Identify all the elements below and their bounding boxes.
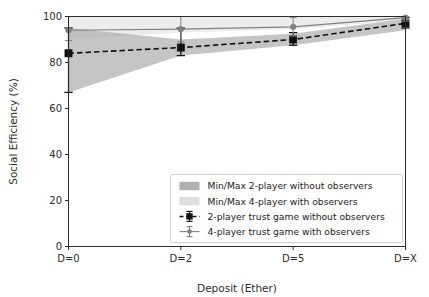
chart-figure: 020406080100D=0D=2D=5D=XDeposit (Ether)S… xyxy=(0,0,429,297)
x-axis-tick-label: D=2 xyxy=(170,253,192,264)
x-axis-tick-label: D=X xyxy=(394,253,417,264)
x-axis-tick-label: D=5 xyxy=(282,253,304,264)
x-axis-label: Deposit (Ether) xyxy=(197,282,277,294)
legend-label: 4-player trust game with observers xyxy=(208,226,370,237)
y-axis-label: Social Efficiency (%) xyxy=(7,78,19,185)
y-axis-tick-label: 60 xyxy=(49,103,62,114)
data-point-marker xyxy=(178,26,184,32)
legend-label: Min/Max 2-player without observers xyxy=(208,180,373,191)
legend-label: 2-player trust game without observers xyxy=(208,211,385,222)
data-point-marker xyxy=(177,44,184,51)
legend-swatch xyxy=(180,182,200,190)
legend-item[interactable] xyxy=(180,182,200,190)
legend-item[interactable] xyxy=(180,197,200,205)
y-axis-tick-label: 0 xyxy=(56,241,62,252)
y-axis-tick-label: 20 xyxy=(49,195,62,206)
y-axis-tick-label: 80 xyxy=(49,57,62,68)
legend-marker xyxy=(187,229,192,234)
chart-canvas: 020406080100D=0D=2D=5D=XDeposit (Ether)S… xyxy=(0,0,429,297)
x-axis-tick-label: D=0 xyxy=(57,253,79,264)
legend-marker xyxy=(186,213,192,219)
data-point-marker xyxy=(290,36,297,43)
legend-swatch xyxy=(180,197,200,205)
y-axis-tick-label: 100 xyxy=(43,11,62,22)
data-point-marker xyxy=(290,24,296,30)
legend-label: Min/Max 4-player with observers xyxy=(208,196,358,207)
y-axis-tick-label: 40 xyxy=(49,149,62,160)
